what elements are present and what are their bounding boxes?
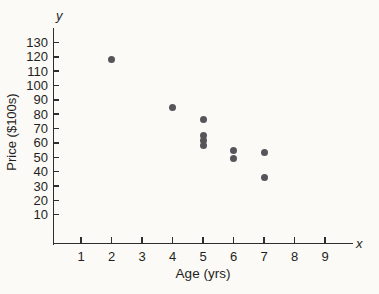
y-axis-letter: y — [56, 8, 63, 23]
data-point — [200, 142, 207, 149]
y-tick-label: 30 — [18, 180, 48, 193]
y-axis-title: Price ($100s) — [4, 93, 19, 170]
x-tick — [324, 237, 326, 243]
x-tick-label: 1 — [70, 250, 92, 263]
x-tick — [263, 237, 265, 243]
x-tick-label: 5 — [192, 250, 214, 263]
y-tick-label: 110 — [18, 65, 48, 78]
y-tick-label: 130 — [18, 36, 48, 49]
y-tick — [53, 113, 59, 115]
y-axis-line — [53, 28, 55, 245]
y-tick — [53, 70, 59, 72]
y-tick — [53, 171, 59, 173]
y-tick-label: 50 — [18, 151, 48, 164]
x-tick — [233, 237, 235, 243]
x-tick-label: 6 — [223, 250, 245, 263]
y-tick-label: 70 — [18, 122, 48, 135]
x-tick-label: 4 — [162, 250, 184, 263]
x-tick — [111, 237, 113, 243]
y-tick — [53, 185, 59, 187]
y-tick-label: 10 — [18, 208, 48, 221]
x-tick-label: 7 — [253, 250, 275, 263]
data-point — [261, 174, 268, 181]
y-tick — [53, 56, 59, 58]
y-tick-label: 80 — [18, 108, 48, 121]
x-tick-label: 8 — [284, 250, 306, 263]
x-axis-letter: x — [356, 236, 363, 251]
x-tick — [141, 237, 143, 243]
x-tick — [294, 237, 296, 243]
y-tick — [53, 128, 59, 130]
x-axis-title: Age (yrs) — [176, 266, 231, 281]
x-tick-label: 9 — [314, 250, 336, 263]
x-tick — [172, 237, 174, 243]
y-tick-label: 60 — [18, 136, 48, 149]
x-tick-label: 3 — [131, 250, 153, 263]
scatter-plot-figure: y x Price ($100s) Age (yrs) 102030405060… — [0, 0, 379, 294]
x-tick — [202, 237, 204, 243]
y-tick-label: 40 — [18, 165, 48, 178]
y-tick — [53, 142, 59, 144]
data-point — [108, 56, 115, 63]
y-tick-label: 120 — [18, 50, 48, 63]
x-tick-label: 2 — [101, 250, 123, 263]
y-tick — [53, 214, 59, 216]
y-tick-label: 20 — [18, 194, 48, 207]
y-tick-label: 90 — [18, 93, 48, 106]
data-point — [230, 155, 237, 162]
data-point — [230, 147, 237, 154]
y-tick — [53, 157, 59, 159]
y-tick — [53, 99, 59, 101]
x-tick — [80, 237, 82, 243]
data-point — [261, 149, 268, 156]
data-point — [169, 104, 176, 111]
y-tick — [53, 85, 59, 87]
y-tick — [53, 42, 59, 44]
y-tick — [53, 200, 59, 202]
data-point — [200, 116, 207, 123]
y-tick-label: 100 — [18, 79, 48, 92]
